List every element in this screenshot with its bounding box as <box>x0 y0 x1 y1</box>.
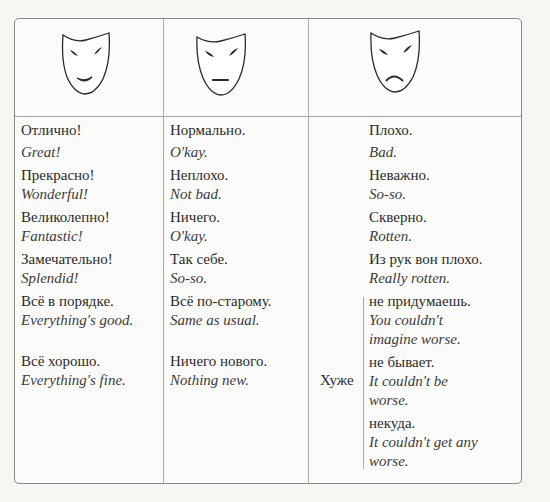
phrase-entry: Великолепно! Fantastic! <box>21 208 133 246</box>
english-translation: worse. <box>369 391 482 410</box>
phrase-entry: Всё по-старому. Same as usual. <box>170 292 272 330</box>
russian-phrase: Всё хорошо. <box>21 352 133 371</box>
phrase-entry: Неплохо. Not bad. <box>170 166 272 204</box>
russian-phrase: Скверно. <box>369 208 482 227</box>
english-translation: Nothing new. <box>170 371 272 390</box>
english-translation: It couldn't be <box>369 372 482 391</box>
russian-phrase: не придумаешь. <box>369 292 482 311</box>
english-translation: You couldn't <box>369 311 482 330</box>
english-translation: Everything's good. <box>21 311 133 330</box>
english-translation: Same as usual. <box>170 311 272 330</box>
english-translation: worse. <box>369 452 482 471</box>
russian-phrase: некуда. <box>369 414 482 433</box>
english-translation: Really rotten. <box>369 269 482 288</box>
english-translation: So-so. <box>369 185 482 204</box>
phrase-entry: не бывает. It couldn't be worse. <box>369 353 482 410</box>
phrase-entry: Плохо. Bad. <box>369 121 482 162</box>
english-translation: Great! <box>21 143 133 162</box>
english-translation: It couldn't get any <box>369 433 482 452</box>
phrase-entry: Всё хорошо. Everything's fine. <box>21 352 133 390</box>
column-negative: Плохо. Bad. Неважно. So-so. Скверно. Rot… <box>369 121 482 475</box>
phrase-entry: Прекрасно! Wonderful! <box>21 166 133 204</box>
phrase-entry: Неважно. So-so. <box>369 166 482 204</box>
english-translation: Splendid! <box>21 269 133 288</box>
russian-phrase: Плохо. <box>369 121 482 140</box>
happy-mask-icon <box>59 31 111 97</box>
russian-phrase: Неплохо. <box>170 166 272 185</box>
russian-phrase: Из рук вон плохо. <box>369 250 482 269</box>
phrase-entry: некуда. It couldn't get any worse. <box>369 414 482 471</box>
phrase-entry: Так себе. So-so. <box>170 250 272 288</box>
worse-bracket-divider <box>363 297 364 469</box>
column-divider <box>163 19 164 483</box>
russian-phrase: Всё по-старому. <box>170 292 272 311</box>
english-translation: Everything's fine. <box>21 371 133 390</box>
russian-phrase: Нормально. <box>170 121 272 140</box>
russian-phrase: Так себе. <box>170 250 272 269</box>
header-divider <box>15 116 521 117</box>
russian-phrase: Великолепно! <box>21 208 133 227</box>
phrase-entry: Нормально. O'kay. <box>170 121 272 162</box>
phrase-entry: Из рук вон плохо. Really rotten. <box>369 250 482 288</box>
phrase-entry: не придумаешь. You couldn't imagine wors… <box>369 292 482 349</box>
russian-phrase: Отлично! <box>21 121 133 140</box>
english-translation: imagine worse. <box>369 330 482 349</box>
english-translation: So-so. <box>170 269 272 288</box>
worse-prefix-label: Хуже <box>320 372 354 389</box>
russian-phrase: Ничего. <box>170 208 272 227</box>
russian-phrase: Прекрасно! <box>21 166 133 185</box>
sad-mask-icon <box>369 29 421 95</box>
phrase-entry: Скверно. Rotten. <box>369 208 482 246</box>
phrase-entry: Замечательно! Splendid! <box>21 250 133 288</box>
english-translation: O'kay. <box>170 227 272 246</box>
phrases-table: Отлично! Great! Прекрасно! Wonderful! Ве… <box>14 18 522 484</box>
phrase-entry: Всё в порядке. Everything's good. <box>21 292 133 330</box>
phrase-entry: Ничего. O'kay. <box>170 208 272 246</box>
english-translation: Not bad. <box>170 185 272 204</box>
phrase-entry: Ничего нового. Nothing new. <box>170 352 272 390</box>
column-positive: Отлично! Great! Прекрасно! Wonderful! Ве… <box>21 121 133 394</box>
russian-phrase: Замечательно! <box>21 250 133 269</box>
phrase-entry: Отлично! Great! <box>21 121 133 162</box>
russian-phrase: Неважно. <box>369 166 482 185</box>
english-translation: O'kay. <box>170 143 272 162</box>
english-translation: Fantastic! <box>21 227 133 246</box>
column-neutral: Нормально. O'kay. Неплохо. Not bad. Ниче… <box>170 121 272 394</box>
russian-phrase: Ничего нового. <box>170 352 272 371</box>
english-translation: Wonderful! <box>21 185 133 204</box>
russian-phrase: Всё в порядке. <box>21 292 133 311</box>
neutral-mask-icon <box>195 31 247 97</box>
english-translation: Bad. <box>369 143 482 162</box>
english-translation: Rotten. <box>369 227 482 246</box>
column-divider <box>308 19 309 483</box>
russian-phrase: не бывает. <box>369 353 482 372</box>
